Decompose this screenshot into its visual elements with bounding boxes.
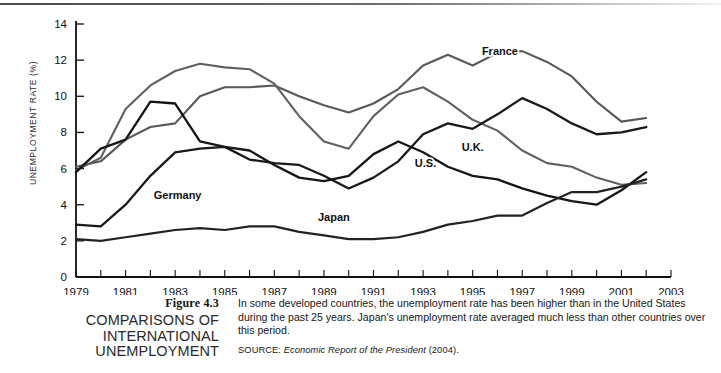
chart-svg: 0246810121419791981198319851987198919911… bbox=[0, 10, 721, 295]
x-tick-label: 1993 bbox=[410, 286, 436, 295]
x-tick-label: 1987 bbox=[262, 286, 288, 295]
x-tick-label: 1997 bbox=[509, 286, 535, 295]
figure-title-line-2: INTERNATIONAL bbox=[0, 329, 219, 345]
y-tick-label: 14 bbox=[54, 18, 67, 30]
figure-page: UNEMPLOYMENT RATE (%) 024681012141979198… bbox=[0, 0, 721, 373]
y-tick-label: 10 bbox=[54, 90, 67, 102]
series-line-germany bbox=[76, 98, 646, 226]
source-year: (2004). bbox=[429, 345, 459, 355]
x-tick-label: 2001 bbox=[609, 286, 635, 295]
x-tick-label: 1981 bbox=[113, 286, 139, 295]
y-axis-title: UNEMPLOYMENT RATE (%) bbox=[28, 38, 38, 208]
figure-title-line-3: UNEMPLOYMENT bbox=[0, 344, 219, 360]
x-tick-label: 1979 bbox=[63, 286, 89, 295]
series-line-france bbox=[76, 51, 646, 167]
series-label-japan: Japan bbox=[318, 211, 350, 223]
y-tick-label: 12 bbox=[54, 54, 67, 66]
x-tick-label: 1991 bbox=[361, 286, 387, 295]
y-tick-label: 4 bbox=[61, 199, 68, 211]
x-tick-label: 2003 bbox=[658, 286, 684, 295]
y-tick-label: 2 bbox=[61, 235, 67, 247]
x-tick-label: 1995 bbox=[460, 286, 486, 295]
y-tick-label: 0 bbox=[61, 271, 67, 283]
top-rule-divider bbox=[0, 3, 721, 5]
series-label-france: France bbox=[482, 45, 518, 57]
y-tick-label: 6 bbox=[61, 163, 67, 175]
source-label: SOURCE: bbox=[238, 345, 281, 355]
series-label-uk: U.K. bbox=[462, 141, 484, 153]
source-title: Economic Report of the President bbox=[284, 345, 426, 355]
series-label-germany: Germany bbox=[154, 189, 203, 201]
figure-number: Figure 4.3 bbox=[0, 296, 219, 311]
figure-title-line-1: COMPARISONS OF bbox=[0, 313, 219, 329]
x-tick-label: 1999 bbox=[559, 286, 585, 295]
x-tick-label: 1985 bbox=[212, 286, 238, 295]
caption-body-text: In some developed countries, the unemplo… bbox=[238, 297, 708, 338]
y-tick-label: 8 bbox=[61, 126, 67, 138]
caption-text-block: In some developed countries, the unemplo… bbox=[238, 297, 708, 355]
x-tick-label: 1989 bbox=[311, 286, 337, 295]
caption-source: SOURCE: Economic Report of the President… bbox=[238, 345, 708, 355]
line-chart: UNEMPLOYMENT RATE (%) 024681012141979198… bbox=[0, 10, 721, 295]
figure-title: COMPARISONS OF INTERNATIONAL UNEMPLOYMEN… bbox=[0, 313, 219, 360]
series-label-us: U.S. bbox=[415, 157, 436, 169]
caption-title-block: Figure 4.3 COMPARISONS OF INTERNATIONAL … bbox=[0, 296, 225, 360]
figure-caption: Figure 4.3 COMPARISONS OF INTERNATIONAL … bbox=[0, 296, 721, 373]
x-tick-label: 1983 bbox=[162, 286, 188, 295]
